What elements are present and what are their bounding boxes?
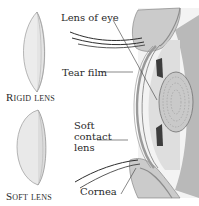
soft-lens-illustration — [17, 110, 46, 185]
eye-cross-section — [70, 8, 199, 198]
lens-of-eye-label: Lens of eye — [61, 12, 119, 23]
soft-lens-caption: Soft lens — [6, 190, 52, 202]
tear-film-label: Tear film — [62, 67, 107, 78]
rigid-lens-caption: Rigid lens — [6, 91, 55, 103]
contact-lens-diagram: Rigid lens Soft lens Lens of eye Tear fi… — [0, 0, 199, 206]
rigid-lens-illustration — [23, 12, 44, 92]
soft-contact-lens-label: Soft contact lens — [74, 120, 114, 153]
cornea-label: Cornea — [80, 186, 117, 197]
diagram-artwork — [0, 0, 199, 206]
